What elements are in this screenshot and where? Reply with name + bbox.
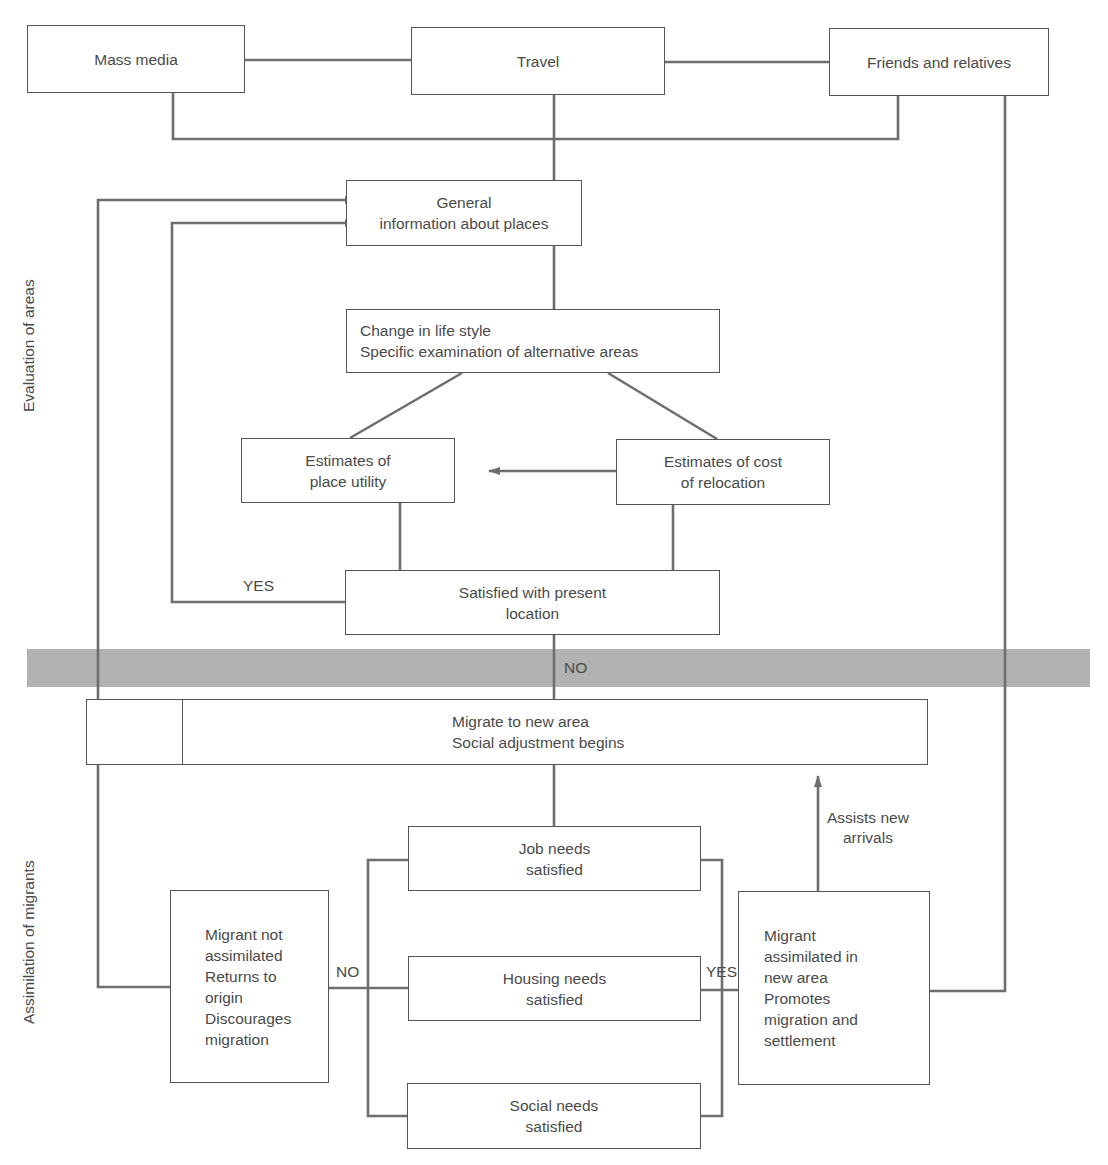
node-mass-media: Mass media — [27, 25, 245, 93]
node-text: assimilated in — [764, 946, 858, 967]
node-text: location — [506, 603, 559, 624]
node-text: Specific examination of alternative area… — [360, 341, 638, 362]
node-text: satisfied — [526, 1116, 583, 1137]
edge-label-yes-top: YES — [243, 576, 274, 596]
node-general-information: General information about places — [346, 180, 582, 246]
node-place-utility: Estimates of place utility — [241, 438, 455, 503]
node-text: General — [436, 192, 491, 213]
node-text: satisfied — [526, 989, 583, 1010]
node-text: Friends and relatives — [867, 52, 1011, 73]
node-travel: Travel — [411, 27, 665, 95]
node-text: Social adjustment begins — [452, 732, 624, 753]
node-text: settlement — [764, 1030, 836, 1051]
node-migrant-not-assimilated: Migrant not assimilated Returns to origi… — [170, 890, 329, 1083]
section-label-evaluation: Evaluation of areas — [20, 279, 38, 412]
node-text: Housing needs — [503, 968, 606, 989]
node-text: Job needs — [519, 838, 591, 859]
node-text: new area — [764, 967, 828, 988]
node-text: migration — [205, 1029, 269, 1050]
node-text: Discourages — [205, 1008, 291, 1029]
edge-label-yes-bottom: YES — [706, 962, 737, 982]
node-cost-of-relocation: Estimates of cost of relocation — [616, 439, 830, 505]
edge-label-assists-new-arrivals: Assists new arrivals — [827, 808, 909, 848]
node-text: migration and — [764, 1009, 858, 1030]
edge-label-line: arrivals — [827, 828, 909, 848]
node-migrant-assimilated: Migrant assimilated in new area Promotes… — [738, 891, 930, 1085]
node-text: assimilated — [205, 945, 283, 966]
node-text: Change in life style — [360, 320, 491, 341]
node-text: Social needs — [510, 1095, 599, 1116]
node-text: information about places — [380, 213, 549, 234]
node-change-life-style: Change in life style Specific examinatio… — [346, 309, 720, 373]
migration-flow-diagram: Evaluation of areas Assimilation of migr… — [0, 0, 1108, 1165]
node-text: Migrant — [764, 925, 816, 946]
edge-label-line: Assists new — [827, 808, 909, 828]
node-text: Mass media — [94, 49, 178, 70]
node-migrate-new-area: Migrate to new area Social adjustment be… — [182, 699, 928, 765]
node-text: of relocation — [681, 472, 765, 493]
node-text: Returns to — [205, 966, 277, 987]
edge-label-no-bottom: NO — [336, 962, 359, 982]
node-text: Satisfied with present — [459, 582, 606, 603]
node-text: Migrate to new area — [452, 711, 589, 732]
node-text: Travel — [517, 51, 560, 72]
node-social-needs: Social needs satisfied — [407, 1083, 701, 1149]
node-text: place utility — [310, 471, 387, 492]
node-text: satisfied — [526, 859, 583, 880]
section-label-assimilation: Assimilation of migrants — [20, 860, 38, 1024]
node-housing-needs: Housing needs satisfied — [408, 956, 701, 1021]
node-satisfied-present-location: Satisfied with present location — [345, 570, 720, 635]
node-friends-relatives: Friends and relatives — [829, 28, 1049, 96]
node-text: Estimates of cost — [664, 451, 782, 472]
node-job-needs: Job needs satisfied — [408, 826, 701, 891]
node-text: Migrant not — [205, 924, 283, 945]
node-text: Estimates of — [305, 450, 390, 471]
node-text: Promotes — [764, 988, 830, 1009]
edge-label-no-band: NO — [564, 658, 587, 678]
node-text: origin — [205, 987, 243, 1008]
